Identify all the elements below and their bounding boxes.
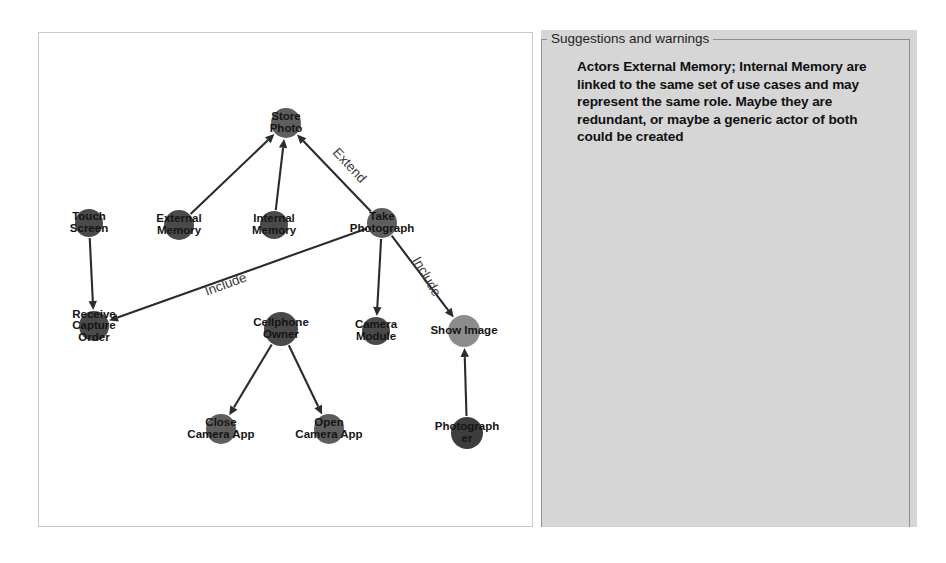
node-label-show_image: Show Image bbox=[430, 324, 497, 336]
edge-touch_screen-to-receive_capture_order[interactable] bbox=[89, 238, 97, 310]
diagram-canvas[interactable]: TouchScreenExternalMemoryInternalMemoryS… bbox=[38, 32, 533, 527]
application-window: TouchScreenExternalMemoryInternalMemoryS… bbox=[0, 0, 946, 563]
edge-label-label_include2: Include bbox=[409, 254, 444, 299]
node-internal_memory[interactable]: InternalMemory bbox=[252, 211, 297, 239]
edge-cellphone_owner-to-open_camera_app[interactable] bbox=[289, 345, 322, 414]
arrow-head-icon bbox=[373, 307, 381, 316]
node-open_camera_app[interactable]: OpenCamera App bbox=[295, 414, 362, 444]
edge-photographer-to-show_image[interactable] bbox=[461, 348, 469, 416]
edge-take_photograph-to-camera_module[interactable] bbox=[373, 239, 381, 316]
node-cellphone_owner[interactable]: CellphoneOwner bbox=[253, 312, 309, 346]
groupbox-legend: Suggestions and warnings bbox=[547, 31, 713, 47]
node-receive_capture_order[interactable]: ReceiveCaptureOrder bbox=[72, 308, 115, 343]
node-label-touch_screen: TouchScreen bbox=[70, 210, 108, 234]
node-label-take_photograph: TakePhotograph bbox=[350, 210, 415, 234]
suggestions-text: Actors External Memory; Internal Memory … bbox=[577, 58, 887, 146]
node-external_memory[interactable]: ExternalMemory bbox=[156, 210, 201, 240]
arrow-head-icon bbox=[461, 348, 469, 357]
node-label-close_camera_app: CloseCamera App bbox=[187, 416, 254, 440]
node-label-store_photo: StorePhoto bbox=[270, 110, 303, 134]
edge-label-label_include1: Include bbox=[203, 270, 249, 299]
edges-layer bbox=[89, 134, 469, 416]
edge-cellphone_owner-to-close_camera_app[interactable] bbox=[229, 344, 272, 415]
node-camera_module[interactable]: CameraModule bbox=[355, 317, 398, 345]
node-show_image[interactable]: Show Image bbox=[430, 315, 497, 347]
node-store_photo[interactable]: StorePhoto bbox=[270, 108, 303, 138]
node-close_camera_app[interactable]: CloseCamera App bbox=[187, 414, 254, 444]
arrow-head-icon bbox=[279, 139, 287, 148]
node-photographer[interactable]: Photographer bbox=[435, 417, 500, 449]
node-take_photograph[interactable]: TakePhotograph bbox=[350, 208, 415, 238]
node-label-cellphone_owner: CellphoneOwner bbox=[253, 316, 309, 340]
use-case-diagram-svg[interactable]: TouchScreenExternalMemoryInternalMemoryS… bbox=[39, 33, 533, 527]
node-label-photographer: Photographer bbox=[435, 420, 500, 444]
node-label-open_camera_app: OpenCamera App bbox=[295, 416, 362, 440]
node-label-internal_memory: InternalMemory bbox=[252, 212, 297, 236]
suggestions-and-warnings-panel: Suggestions and warnings Actors External… bbox=[541, 30, 917, 527]
node-label-external_memory: ExternalMemory bbox=[156, 212, 201, 236]
node-touch_screen[interactable]: TouchScreen bbox=[70, 209, 108, 237]
node-label-receive_capture_order: ReceiveCaptureOrder bbox=[72, 308, 115, 343]
node-label-camera_module: CameraModule bbox=[355, 318, 398, 342]
edge-internal_memory-to-store_photo[interactable] bbox=[276, 139, 288, 210]
edge-external_memory-to-store_photo[interactable] bbox=[191, 134, 275, 214]
edge-label-label_extend: Extend bbox=[330, 145, 370, 186]
